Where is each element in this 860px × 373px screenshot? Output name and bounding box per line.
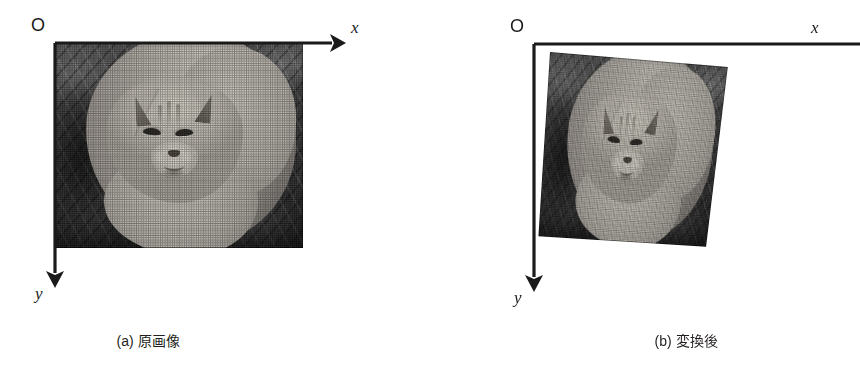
- y-axis-label: y: [514, 289, 522, 306]
- arrow-down-icon: [525, 275, 543, 292]
- panel-original: O x y (a) 原画像: [0, 0, 470, 373]
- origin-label: O: [510, 17, 524, 35]
- arrow-down-icon: [46, 271, 64, 288]
- y-axis-label: y: [35, 285, 43, 302]
- caption-original: (a) 原画像: [117, 333, 180, 350]
- origin-label: O: [31, 16, 45, 34]
- figure-root: O x y (a) 原画像: [0, 0, 860, 373]
- axes-original: [0, 0, 470, 373]
- x-axis-label: x: [351, 19, 359, 36]
- panel-transformed: O x y (b) 変換後: [470, 0, 860, 373]
- axes-transformed: [470, 0, 860, 373]
- x-axis-label: x: [811, 19, 819, 36]
- arrow-right-icon: [330, 34, 346, 52]
- caption-transformed: (b) 変換後: [655, 333, 718, 350]
